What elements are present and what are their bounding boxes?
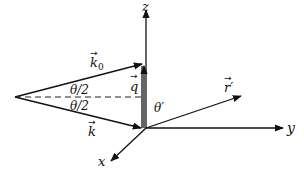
z-axis-label: z <box>141 0 149 14</box>
half-theta-upper-label: θ/2 <box>70 83 89 97</box>
q-arrow-accent: → <box>130 71 138 81</box>
y-axis-label: y <box>286 120 296 136</box>
k-arrow-accent: → <box>88 117 96 127</box>
r-arrow-accent: → <box>224 73 232 83</box>
diagram: z y x k0 → k → q → r′ → θ/2 θ/2 θ′ <box>0 0 304 179</box>
theta-prime-label: θ′ <box>154 101 164 115</box>
k0-subscript: 0 <box>98 62 104 72</box>
k0-arrow-accent: → <box>90 48 98 58</box>
x-axis-label: x <box>98 154 106 169</box>
q-label: q <box>130 79 138 94</box>
half-theta-lower-label: θ/2 <box>70 99 89 113</box>
x-axis <box>111 128 146 161</box>
diagram-canvas: z y x k0 → k → q → r′ → θ/2 θ/2 θ′ <box>0 0 304 179</box>
